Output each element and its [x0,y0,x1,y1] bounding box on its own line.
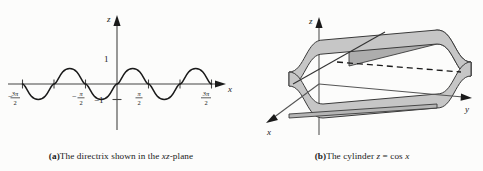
svg-text:2: 2 [204,99,207,106]
panel-b-caption-text-2: = cos [380,151,405,161]
figure-container: x z 1 −1 − 3π 2 − π 2 π [0,0,483,171]
panel-b-caption: (b)The cylinder z = cos x [241,152,483,161]
svg-text:2: 2 [137,99,140,106]
svg-text:3π: 3π [11,90,19,97]
tick-label-neg-pi-over-2: − π 2 [72,90,85,106]
svg-text:3π: 3π [202,90,210,97]
z-axis-label: z [106,14,111,24]
tick-label-neg-3pi-over-2: − 3π 2 [8,90,20,106]
z-value-one-label: 1 [104,54,109,64]
panel-a-plot: x z 1 −1 − 3π 2 − π 2 π [0,0,242,140]
panel-a-caption-text-2: -plane [170,151,194,161]
panel-b-plot: z x y [241,0,483,140]
panel-a-caption-tag: (a) [49,151,60,161]
panel-b-caption-tag: (b) [315,151,327,161]
z-axis-label: z [308,16,313,26]
svg-text:π: π [137,90,141,97]
x-axis-label: x [227,84,232,94]
z-value-minus-one-label: −1 [94,95,104,105]
panel-b-caption-text-1: The cylinder [326,151,376,161]
z-axis [113,15,120,130]
svg-text:−: − [72,92,77,101]
y-axis-label: y [464,104,469,114]
tick-label-3pi-over-2: 3π 2 [201,90,211,106]
x-axis-label: x [266,127,271,137]
panel-b-cylinder: z x y (b)The cylinder z = cos x [241,0,483,171]
svg-text:2: 2 [79,99,82,106]
panel-a-caption-text-1: The directrix shown in the [60,151,162,161]
svg-text:2: 2 [13,99,16,106]
tick-label-pi-over-2: π 2 [136,90,143,106]
panel-a-caption: (a)The directrix shown in the xz-plane [0,152,242,161]
panel-a-caption-italic: xz [162,151,170,161]
panel-b-caption-italic-2: x [405,151,409,161]
svg-text:π: π [79,90,83,97]
panel-a-directrix: x z 1 −1 − 3π 2 − π 2 π [0,0,242,171]
